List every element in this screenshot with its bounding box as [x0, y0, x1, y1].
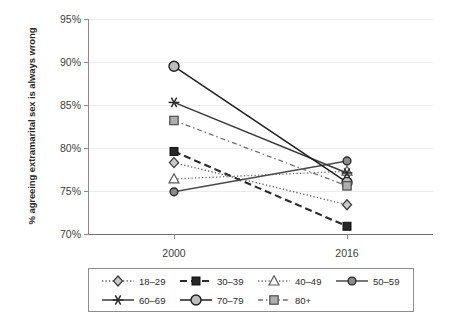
y-axis-title: % agreeing extramarital sex is always wr… — [26, 26, 38, 226]
legend-label-70–79: 70–79 — [217, 295, 243, 306]
y-axis-label-85: 85% — [60, 99, 81, 111]
series-line-70–79 — [174, 66, 347, 182]
legend-entry-50–59[interactable]: 50–59 — [335, 274, 413, 288]
y-axis-label-75: 75% — [60, 185, 81, 197]
legend: 18–2930–3940–4950–59 60–6970–7980+ — [88, 268, 414, 312]
x-tick-2016 — [347, 234, 348, 239]
legend-label-60–69: 60–69 — [139, 295, 165, 306]
y-axis-label-70: 70% — [60, 228, 81, 240]
legend-label-30–39: 30–39 — [217, 276, 243, 287]
legend-key-80+ — [257, 293, 291, 307]
y-axis-label-95: 95% — [60, 13, 81, 25]
x-axis-label-2016: 2016 — [335, 247, 358, 259]
legend-label-50–59: 50–59 — [373, 276, 399, 287]
series-line-18–29 — [174, 163, 347, 205]
line-chart: % agreeing extramarital sex is always wr… — [0, 0, 463, 330]
y-tick-70 — [84, 234, 89, 235]
legend-entry-18–29[interactable]: 18–29 — [101, 274, 179, 288]
legend-key-40–49 — [257, 274, 291, 288]
x-axis-line — [88, 234, 433, 235]
y-axis-label-80: 80% — [60, 142, 81, 154]
legend-key-70–79 — [179, 293, 213, 307]
series-line-40–49 — [174, 171, 347, 179]
x-axis-label-2000: 2000 — [162, 247, 185, 259]
data-point-18–29-2016 — [342, 200, 351, 210]
data-point-18–29-2000 — [169, 158, 178, 168]
x-tick-2000 — [174, 234, 175, 239]
y-axis-label-90: 90% — [60, 56, 81, 68]
plot-area: 95% 90% 85% 80% 75% 70% 2000 2016 — [88, 19, 433, 234]
legend-row-2: 60–6970–7980+ — [89, 290, 413, 310]
legend-key-18–29 — [101, 274, 135, 288]
legend-entry-30–39[interactable]: 30–39 — [179, 274, 257, 288]
data-point-30–39-2000 — [170, 147, 178, 155]
data-point-70–79-2000 — [169, 61, 179, 71]
legend-key-30–39 — [179, 274, 213, 288]
legend-label-40–49: 40–49 — [295, 276, 321, 287]
legend-entry-70–79[interactable]: 70–79 — [179, 293, 257, 307]
data-point-60–69-2000 — [169, 98, 180, 107]
legend-key-60–69 — [101, 293, 135, 307]
data-point-80+-2000 — [170, 116, 178, 124]
legend-entry-80+[interactable]: 80+ — [257, 293, 335, 307]
data-point-80+-2016 — [343, 182, 351, 190]
data-point-50–59-2016 — [343, 157, 351, 165]
legend-entry-40–49[interactable]: 40–49 — [257, 274, 335, 288]
series-layer — [88, 19, 433, 234]
legend-label-80+: 80+ — [295, 295, 311, 306]
data-point-50–59-2000 — [170, 188, 178, 196]
legend-key-50–59 — [335, 274, 369, 288]
legend-entry-60–69[interactable]: 60–69 — [101, 293, 179, 307]
legend-row-1: 18–2930–3940–4950–59 — [89, 271, 413, 291]
data-point-30–39-2016 — [343, 222, 351, 230]
legend-label-18–29: 18–29 — [139, 276, 165, 287]
